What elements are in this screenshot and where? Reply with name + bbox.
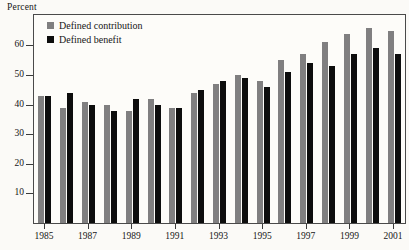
legend-item-db: Defined benefit xyxy=(47,33,143,47)
bar-1991-dc xyxy=(169,108,175,223)
bar-1993-db xyxy=(220,81,226,223)
legend-item-dc: Defined contribution xyxy=(47,19,143,33)
x-axis-tick-label: 1995 xyxy=(245,231,279,241)
bar-1998-db xyxy=(329,66,335,223)
bar-1997-dc xyxy=(300,54,306,223)
x-axis-tick-label: 1989 xyxy=(114,231,148,241)
bar-2000-dc xyxy=(366,28,372,223)
bar-1988-dc xyxy=(104,105,110,223)
y-axis-tick-label: 20 xyxy=(4,158,24,168)
bar-1986-dc xyxy=(60,108,66,223)
x-axis-tick-label: 2001 xyxy=(376,231,409,241)
x-axis-tick xyxy=(219,224,220,229)
bar-1994-dc xyxy=(235,75,241,223)
bar-2001-dc xyxy=(388,31,394,223)
bar-1996-dc xyxy=(278,60,284,223)
x-axis-tick-label: 1985 xyxy=(27,231,61,241)
bar-1986-db xyxy=(67,93,73,223)
bar-1985-dc xyxy=(38,96,44,223)
y-axis-tick-label: 30 xyxy=(4,128,24,138)
x-axis-tick xyxy=(393,224,394,229)
bar-1999-dc xyxy=(344,34,350,223)
bars-layer xyxy=(34,15,405,223)
bar-1987-dc xyxy=(82,102,88,223)
x-axis-tick-label: 1993 xyxy=(202,231,236,241)
y-axis-tick xyxy=(26,164,33,165)
legend-label: Defined contribution xyxy=(59,19,143,33)
x-axis-tick xyxy=(131,224,132,229)
x-axis-tick xyxy=(349,224,350,229)
legend-swatch-icon-dc xyxy=(47,22,54,29)
bar-1995-dc xyxy=(257,81,263,223)
bar-2001-db xyxy=(395,54,401,223)
y-axis-tick-label: 10 xyxy=(4,187,24,197)
bar-1989-db xyxy=(133,99,139,223)
y-axis-tick-label: 50 xyxy=(4,69,24,79)
x-axis-tick-label: 1987 xyxy=(71,231,105,241)
x-axis-tick xyxy=(262,224,263,229)
y-axis-tick xyxy=(26,75,33,76)
x-axis-tick-label: 1997 xyxy=(289,231,323,241)
bar-2000-db xyxy=(373,48,379,223)
bar-1997-db xyxy=(307,63,313,223)
bar-1998-dc xyxy=(322,42,328,223)
y-axis-tick xyxy=(26,134,33,135)
bar-1994-db xyxy=(242,78,248,223)
y-axis-unit-label: Percent xyxy=(7,2,37,12)
bar-1990-dc xyxy=(148,99,154,223)
x-axis-tick-label: 1999 xyxy=(332,231,366,241)
x-axis-tick xyxy=(175,224,176,229)
legend-label: Defined benefit xyxy=(59,33,121,47)
y-axis-tick-label: 60 xyxy=(4,39,24,49)
bar-1992-dc xyxy=(191,93,197,223)
bar-1995-db xyxy=(264,87,270,223)
bar-1989-dc xyxy=(126,111,132,223)
chart-legend: Defined contributionDefined benefit xyxy=(47,19,143,46)
bar-1991-db xyxy=(176,108,182,223)
legend-swatch-icon-db xyxy=(47,36,54,43)
bar-1987-db xyxy=(89,105,95,223)
x-axis-tick-label: 1991 xyxy=(158,231,192,241)
bar-chart: Percent 102030405060 1985198719891991199… xyxy=(0,0,409,250)
x-axis-tick xyxy=(88,224,89,229)
x-axis-tick xyxy=(44,224,45,229)
y-axis-tick xyxy=(26,193,33,194)
y-axis-tick-label: 40 xyxy=(4,99,24,109)
bar-1985-db xyxy=(45,96,51,223)
bar-1993-dc xyxy=(213,84,219,223)
x-axis-tick xyxy=(306,224,307,229)
bar-1996-db xyxy=(285,72,291,223)
y-axis-tick xyxy=(26,45,33,46)
bar-1988-db xyxy=(111,111,117,223)
y-axis-tick xyxy=(26,105,33,106)
bar-1999-db xyxy=(351,54,357,223)
bar-1992-db xyxy=(198,90,204,223)
bar-1990-db xyxy=(155,105,161,223)
